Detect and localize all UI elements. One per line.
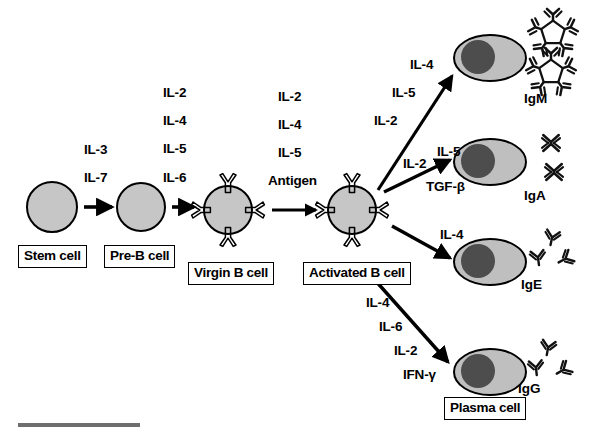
virgin-b-cell-body bbox=[192, 174, 265, 247]
cytokine-ifng-label: IFN-γ bbox=[403, 368, 436, 382]
cytokine-il6-igg-label: IL-6 bbox=[379, 320, 402, 334]
activated-b-cell-body bbox=[316, 174, 389, 247]
cytokine-il5-preb-label: IL-5 bbox=[163, 142, 186, 156]
plasma-cell-ige bbox=[454, 239, 526, 285]
igm-pentamers bbox=[525, 9, 578, 97]
pre-b-cell-body bbox=[117, 183, 165, 231]
cytokine-il2-preb-label: IL-2 bbox=[163, 86, 186, 100]
cytokine-il4-virgin-label: IL-4 bbox=[278, 118, 301, 132]
plasma-cell-igg bbox=[454, 349, 526, 395]
ige-monomers bbox=[529, 229, 574, 269]
scale-bar bbox=[18, 423, 140, 427]
ige-label: IgE bbox=[521, 278, 542, 292]
pre-b-cell-label-box: Pre-B cell bbox=[104, 245, 175, 268]
igg-monomers bbox=[528, 340, 573, 381]
cytokine-il2-virgin-label: IL-2 bbox=[278, 90, 301, 104]
stem-cell-body bbox=[27, 182, 77, 232]
plasma-cell-igm bbox=[454, 35, 526, 81]
iga-dimers bbox=[542, 135, 563, 180]
cytokine-il4-igg-label: IL-4 bbox=[366, 296, 389, 310]
cytokine-il5-iga-label: IL-5 bbox=[437, 145, 460, 159]
virgin-b-cell-label-box: Virgin B cell bbox=[188, 262, 274, 285]
cytokine-il5-igm-label: IL-5 bbox=[392, 86, 415, 100]
diagram-graphics-layer bbox=[0, 0, 591, 441]
activated-b-cell-label-box: Activated B cell bbox=[303, 262, 411, 285]
cytokine-il7-label: IL-7 bbox=[84, 171, 107, 185]
stem-cell-label-box: Stem cell bbox=[18, 245, 87, 268]
cytokine-il4-preb-label: IL-4 bbox=[163, 114, 186, 128]
plasma-cell-iga bbox=[454, 139, 526, 185]
cytokine-il5-virgin-label: IL-5 bbox=[278, 146, 301, 160]
cytokine-il3-label: IL-3 bbox=[84, 143, 107, 157]
b-cell-differentiation-diagram: IL-3 IL-7 IL-2 IL-4 IL-5 IL-6 IL-2 IL-4 … bbox=[0, 0, 591, 441]
cytokine-il2-igg-label: IL-2 bbox=[394, 344, 417, 358]
igm-label: IgM bbox=[524, 92, 547, 106]
cytokine-il4-ige-label: IL-4 bbox=[440, 228, 463, 242]
iga-label: IgA bbox=[524, 189, 546, 203]
cytokine-il4-igm-label: IL-4 bbox=[410, 58, 433, 72]
antigen-label: Antigen bbox=[268, 174, 317, 188]
cytokine-il6-preb-label: IL-6 bbox=[163, 171, 186, 185]
plasma-cell-label-box: Plasma cell bbox=[444, 397, 526, 420]
igg-label: IgG bbox=[518, 382, 541, 396]
cytokine-il2-igm-label: IL-2 bbox=[374, 114, 397, 128]
cytokine-tgfb-label: TGF-β bbox=[426, 180, 465, 194]
cytokine-il2-iga-label: IL-2 bbox=[403, 157, 426, 171]
